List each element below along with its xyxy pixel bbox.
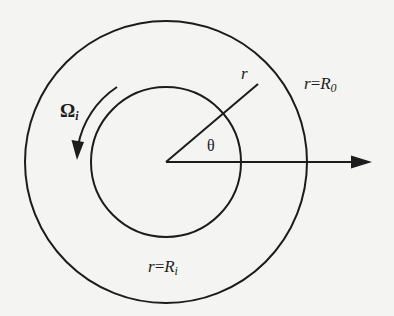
rotation-arrowhead-icon (72, 140, 85, 160)
outer-boundary-lhs: r (304, 74, 311, 93)
radial-label: r (241, 65, 248, 82)
outer-boundary-sub: 0 (331, 81, 337, 95)
radial-label-text: r (241, 64, 248, 83)
theta-label: θ (207, 138, 215, 154)
rotation-arc (78, 87, 117, 146)
omega-label: Ωi (60, 101, 79, 122)
axis-arrowhead-icon (351, 156, 372, 169)
outer-boundary-label: r=R0 (304, 75, 337, 94)
concentric-cylinders-diagram (0, 0, 394, 316)
outer-boundary-eq: = (311, 74, 321, 93)
inner-boundary-sub: i (175, 264, 178, 278)
outer-boundary-sym: R (320, 74, 330, 93)
inner-boundary-sym: R (164, 257, 174, 276)
inner-boundary-lhs: r (148, 257, 155, 276)
inner-boundary-label: r=Ri (148, 258, 178, 277)
omega-symbol: Ω (60, 100, 75, 121)
inner-boundary-eq: = (155, 257, 165, 276)
omega-subscript: i (75, 109, 78, 123)
theta-label-text: θ (207, 137, 215, 154)
